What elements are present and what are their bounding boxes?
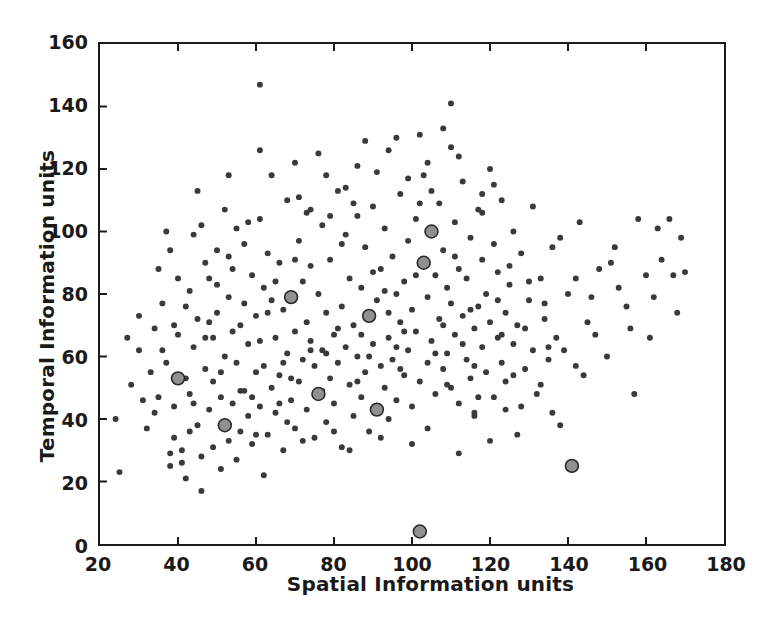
data-point xyxy=(292,329,298,335)
data-point xyxy=(393,135,399,141)
data-point xyxy=(323,419,329,425)
data-point xyxy=(159,347,165,353)
data-point xyxy=(425,360,431,366)
data-point xyxy=(300,279,306,285)
highlighted-data-point xyxy=(218,419,231,432)
data-point xyxy=(386,335,392,341)
data-point xyxy=(503,407,509,413)
data-point xyxy=(397,191,403,197)
data-point xyxy=(405,347,411,353)
data-point xyxy=(292,160,298,166)
data-point xyxy=(608,260,614,266)
data-point xyxy=(245,413,251,419)
data-point xyxy=(237,429,243,435)
data-point xyxy=(495,269,501,275)
data-point xyxy=(284,350,290,356)
data-point xyxy=(308,338,314,344)
y-tick-label: 0 xyxy=(30,535,88,557)
data-point xyxy=(253,369,259,375)
data-point xyxy=(429,188,435,194)
data-point xyxy=(549,410,555,416)
data-point xyxy=(448,300,454,306)
data-point xyxy=(343,185,349,191)
data-point xyxy=(487,166,493,172)
data-point xyxy=(643,272,649,278)
data-point xyxy=(573,363,579,369)
data-point xyxy=(382,225,388,231)
data-point xyxy=(491,241,497,247)
data-point xyxy=(397,366,403,372)
data-point xyxy=(351,322,357,328)
data-point xyxy=(510,372,516,378)
data-point xyxy=(417,379,423,385)
data-point xyxy=(425,160,431,166)
data-point xyxy=(401,329,407,335)
y-tick-label: 20 xyxy=(30,472,88,494)
scatter-plot-figure: Temporal Information units 0204060801001… xyxy=(0,0,775,624)
data-point xyxy=(390,357,396,363)
data-point xyxy=(503,379,509,385)
data-point xyxy=(308,347,314,353)
y-tick-label: 140 xyxy=(30,94,88,116)
data-point xyxy=(230,400,236,406)
data-point xyxy=(378,363,384,369)
data-point xyxy=(237,322,243,328)
data-point xyxy=(417,200,423,206)
data-point xyxy=(401,279,407,285)
data-point xyxy=(487,319,493,325)
data-point xyxy=(167,450,173,456)
data-point xyxy=(448,100,454,106)
data-point xyxy=(234,360,240,366)
data-point xyxy=(331,400,337,406)
data-point xyxy=(479,344,485,350)
data-point xyxy=(468,375,474,381)
data-point xyxy=(335,325,341,331)
y-tick-label: 160 xyxy=(30,31,88,53)
data-point xyxy=(471,363,477,369)
data-point xyxy=(206,319,212,325)
data-point xyxy=(522,325,528,331)
data-point xyxy=(144,425,150,431)
data-point xyxy=(393,291,399,297)
data-point xyxy=(386,416,392,422)
scatter-canvas xyxy=(100,44,724,544)
data-point xyxy=(261,363,267,369)
data-point xyxy=(670,272,676,278)
data-point xyxy=(222,354,228,360)
data-point xyxy=(117,469,123,475)
data-point xyxy=(183,304,189,310)
highlighted-data-point xyxy=(417,256,430,269)
data-point xyxy=(624,304,630,310)
data-point xyxy=(464,357,470,363)
data-point xyxy=(214,282,220,288)
data-point xyxy=(195,422,201,428)
data-point xyxy=(113,416,119,422)
data-point xyxy=(491,182,497,188)
data-point xyxy=(479,257,485,263)
data-point xyxy=(354,354,360,360)
data-point xyxy=(456,154,462,160)
data-point xyxy=(269,297,275,303)
y-tick-label: 60 xyxy=(30,346,88,368)
data-point xyxy=(534,391,540,397)
data-point xyxy=(249,272,255,278)
data-point xyxy=(202,260,208,266)
data-point xyxy=(370,341,376,347)
data-point xyxy=(436,316,442,322)
data-point xyxy=(468,235,474,241)
data-point xyxy=(234,457,240,463)
data-point xyxy=(273,335,279,341)
data-point xyxy=(413,329,419,335)
data-point xyxy=(354,213,360,219)
data-point xyxy=(370,204,376,210)
data-point xyxy=(464,275,470,281)
data-point xyxy=(187,429,193,435)
data-point xyxy=(542,300,548,306)
data-point xyxy=(187,391,193,397)
data-point xyxy=(288,375,294,381)
data-point xyxy=(471,413,477,419)
data-point xyxy=(382,288,388,294)
data-point xyxy=(432,391,438,397)
data-point xyxy=(148,369,154,375)
data-point xyxy=(335,360,341,366)
